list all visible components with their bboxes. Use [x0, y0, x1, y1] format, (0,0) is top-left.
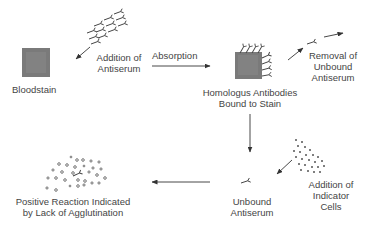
label-removal: Removal of Unbound Antiserum	[306, 50, 360, 83]
label-line: Addition of	[304, 179, 358, 190]
unbound-antiserum-icon	[240, 178, 250, 185]
label-line: Homologus Antibodies	[195, 87, 305, 98]
label-line: Unbound	[306, 61, 360, 72]
bound-stain-square	[235, 44, 272, 79]
label-line: Antiserum	[222, 207, 282, 218]
arrow-to-removal	[288, 48, 303, 60]
unbound-antibody-icon	[306, 39, 316, 46]
bloodstain-square	[22, 48, 50, 77]
label-unbound: Unbound Antiserum	[222, 196, 282, 218]
label-indicator: Addition of Indicator Cells	[304, 179, 358, 212]
label-line: Bound to Stain	[195, 98, 305, 109]
label-line: Antiserum	[306, 72, 360, 83]
label-bound: Homologus Antibodies Bound to Stain	[195, 87, 305, 109]
antiserum-antibodies-icon	[86, 9, 127, 46]
label-line: Addition of	[93, 52, 145, 63]
label-line: Cells	[304, 201, 358, 212]
arrow-removal-out	[324, 33, 343, 37]
non-agglutinated-cells-icon	[46, 156, 106, 191]
indicator-cells-icon	[293, 139, 325, 173]
label-line: Unbound	[222, 196, 282, 207]
label-line: Indicator	[304, 190, 358, 201]
label-line: by Lack of Agglutination	[12, 207, 134, 218]
label-addition-antiserum: Addition of Antiserum	[93, 52, 145, 74]
label-line: Antiserum	[93, 63, 145, 74]
label-absorption: Absorption	[152, 50, 197, 61]
arrow-indicator-to-unbound	[277, 160, 292, 174]
label-bloodstain: Bloodstain	[12, 84, 56, 95]
label-line: Positive Reaction Indicated	[12, 196, 134, 207]
arrow-addition-to-bloodstain	[76, 47, 90, 59]
label-positive: Positive Reaction Indicated by Lack of A…	[12, 196, 134, 218]
label-line: Removal of	[306, 50, 360, 61]
